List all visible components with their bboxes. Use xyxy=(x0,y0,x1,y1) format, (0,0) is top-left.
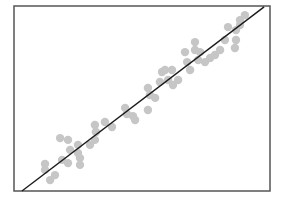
data-point xyxy=(231,44,239,52)
data-point xyxy=(191,38,199,46)
data-point xyxy=(232,36,240,44)
data-point xyxy=(216,46,224,54)
data-point xyxy=(151,94,159,102)
data-point xyxy=(64,136,72,144)
plot-frame xyxy=(14,6,270,191)
data-point xyxy=(241,11,249,19)
data-point xyxy=(76,154,84,162)
data-point xyxy=(156,78,164,86)
data-point xyxy=(131,116,139,124)
data-point xyxy=(224,23,232,31)
data-point xyxy=(56,134,64,142)
data-point xyxy=(64,159,72,167)
data-point xyxy=(186,66,194,74)
data-point xyxy=(181,48,189,56)
data-point xyxy=(144,106,152,114)
scatter-chart xyxy=(0,0,283,202)
data-point xyxy=(168,66,176,74)
data-point xyxy=(174,76,182,84)
data-point xyxy=(51,171,59,179)
